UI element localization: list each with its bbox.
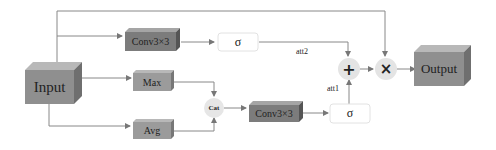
output-label: Output <box>414 52 464 86</box>
max-to-cat-line <box>173 82 214 96</box>
att2-label: att2 <box>296 47 308 56</box>
add-label: + <box>338 58 360 80</box>
att1-label: att1 <box>327 84 339 93</box>
avg-to-cat-line <box>173 118 214 131</box>
attention-module-diagram: Input Conv3×3 σ Max Avg Cat Conv3×3 σ + … <box>0 0 496 150</box>
cat-label: Cat <box>204 98 224 118</box>
sigma-top-label: σ <box>218 33 258 51</box>
max-label: Max <box>133 73 171 91</box>
input-label: Input <box>25 70 74 104</box>
conv-top-label: Conv3×3 <box>125 32 176 51</box>
sigma-bottom-label: σ <box>330 104 370 123</box>
conv-bottom-label: Conv3×3 <box>249 105 299 122</box>
mul-label: × <box>375 58 397 80</box>
input-to-avg-line <box>49 104 130 126</box>
avg-label: Avg <box>133 122 171 139</box>
